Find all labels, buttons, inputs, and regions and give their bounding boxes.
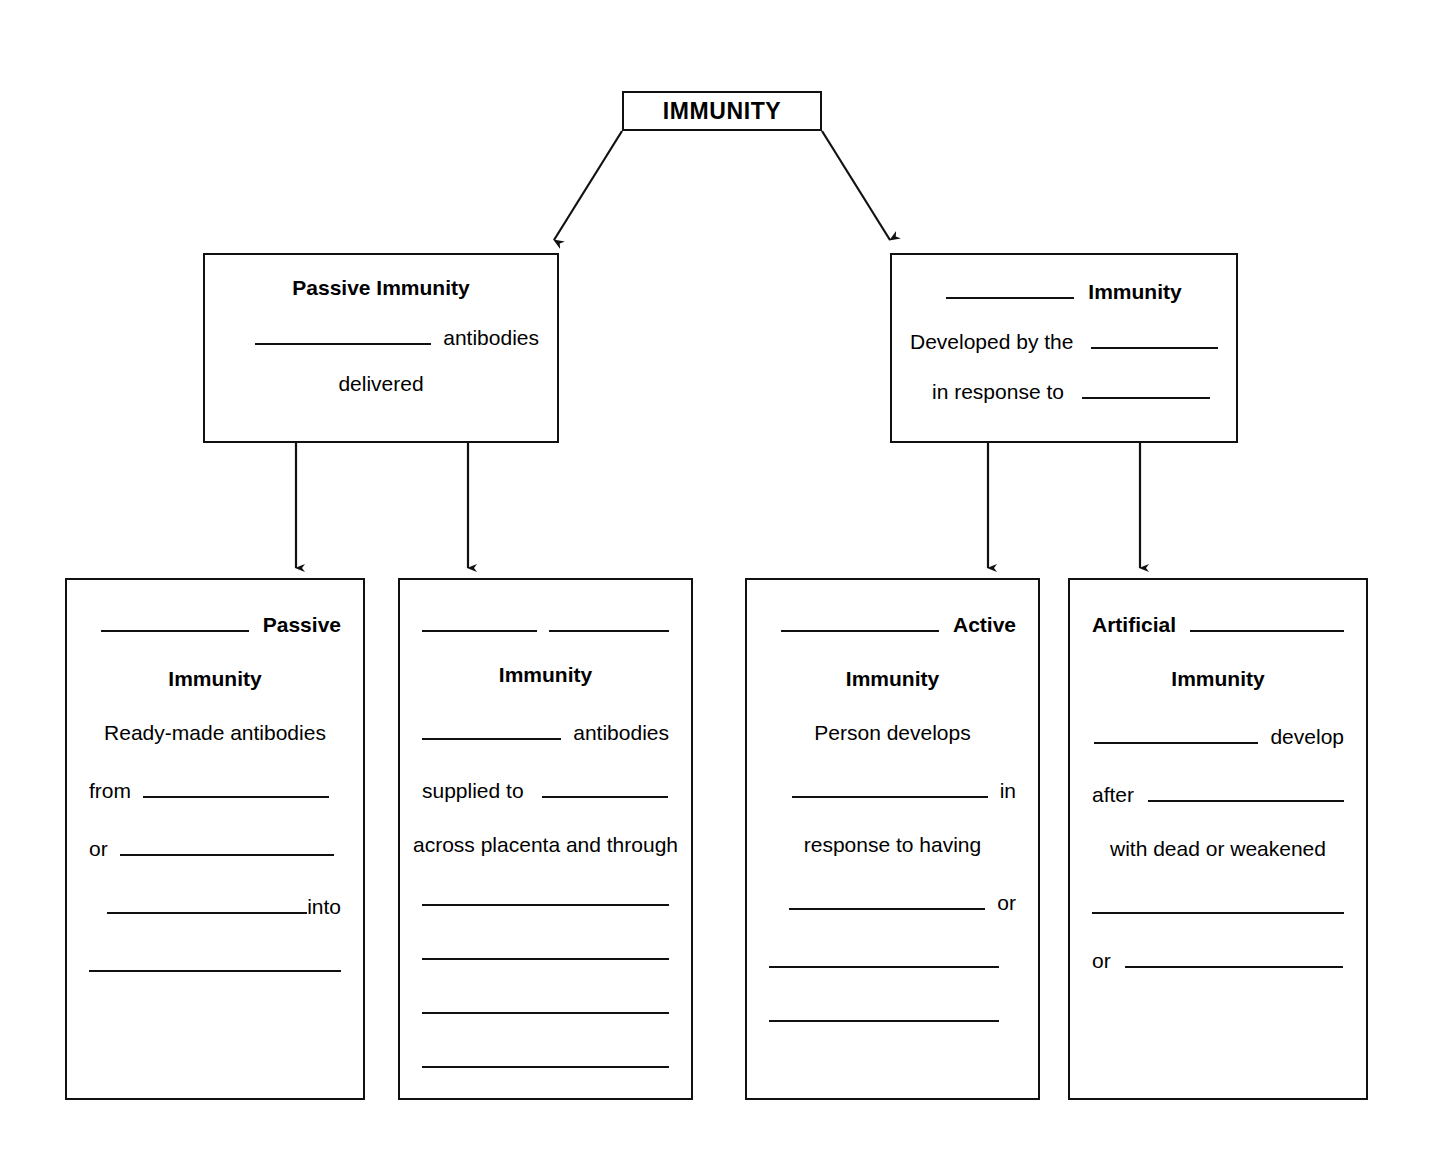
leaf2-row-2: supplied to bbox=[422, 776, 669, 802]
second-heading-blank[interactable] bbox=[946, 277, 1074, 299]
passive-row-2: delivered bbox=[223, 373, 539, 395]
leaf3-row-4-blank[interactable] bbox=[789, 888, 985, 910]
leaf1-row-3-blank[interactable] bbox=[120, 834, 334, 856]
leaf4-row-1: develop bbox=[1092, 722, 1344, 748]
leaf2-title-blank-b[interactable] bbox=[549, 610, 669, 632]
leaf2-row-6 bbox=[422, 992, 669, 1014]
immunity-concept-map: IMMUNITY Passive Immunity antibodies del… bbox=[0, 0, 1450, 1159]
second-heading-label: Immunity bbox=[1088, 281, 1181, 303]
leaf1-row-4-blank[interactable] bbox=[107, 892, 307, 914]
leaf3-title-immunity: Immunity bbox=[846, 668, 939, 690]
leaf2-row-1-blank[interactable] bbox=[422, 718, 561, 740]
leaf4-title-row-2: Immunity bbox=[1092, 668, 1344, 690]
leaf3-row-3-label: response to having bbox=[804, 834, 981, 856]
box-passive-immunity: Passive Immunity antibodies delivered bbox=[203, 253, 559, 443]
leaf2-row-2-blank[interactable] bbox=[542, 776, 668, 798]
leaf3-title-blank[interactable] bbox=[781, 610, 939, 632]
passive-row-1-label: antibodies bbox=[443, 327, 539, 349]
leaf1-title-row-1: Passive bbox=[89, 610, 341, 636]
leaf4-row-2-blank[interactable] bbox=[1148, 780, 1344, 802]
root-box-immunity: IMMUNITY bbox=[622, 91, 822, 131]
leaf2-row-2-label: supplied to bbox=[422, 780, 524, 802]
second-heading-row: Immunity bbox=[910, 277, 1218, 303]
leaf4-row-1-label: develop bbox=[1270, 726, 1344, 748]
leaf1-row-1-label: Ready-made antibodies bbox=[104, 722, 326, 744]
leaf3-row-5 bbox=[769, 946, 1016, 968]
leaf4-row-4 bbox=[1092, 892, 1344, 914]
leaf4-row-5: or bbox=[1092, 946, 1344, 972]
leaf1-row-4-label: into bbox=[307, 896, 341, 918]
leaf2-row-6-blank[interactable] bbox=[422, 992, 669, 1014]
leaf3-row-6 bbox=[769, 1000, 1016, 1022]
leaf1-row-5 bbox=[89, 950, 341, 972]
passive-row-1: antibodies bbox=[223, 323, 539, 349]
leaf1-row-1: Ready-made antibodies bbox=[89, 722, 341, 744]
leaf2-title-row-2: Immunity bbox=[422, 664, 669, 686]
leaf2-title-blank-a[interactable] bbox=[422, 610, 537, 632]
leaf2-row-5 bbox=[422, 938, 669, 960]
leaf3-row-2: in bbox=[769, 776, 1016, 802]
leaf2-row-5-blank[interactable] bbox=[422, 938, 669, 960]
leaf3-row-6-blank[interactable] bbox=[769, 1000, 999, 1022]
leaf2-row-7-blank[interactable] bbox=[422, 1046, 669, 1068]
box-blank-active-immunity: Active Immunity Person develops in respo… bbox=[745, 578, 1040, 1100]
leaf3-title-row-1: Active bbox=[769, 610, 1016, 636]
leaf1-row-3-label: or bbox=[89, 838, 108, 860]
leaf2-row-4 bbox=[422, 884, 669, 906]
leaf4-row-2-label: after bbox=[1092, 784, 1134, 806]
leaf4-row-5-label: or bbox=[1092, 950, 1111, 972]
second-row-1-label: Developed by the bbox=[910, 331, 1073, 353]
leaf2-title-row-1 bbox=[422, 610, 669, 632]
leaf2-row-7 bbox=[422, 1046, 669, 1068]
leaf1-row-2: from bbox=[89, 776, 341, 802]
leaf4-row-2: after bbox=[1092, 780, 1344, 806]
leaf1-row-3: or bbox=[89, 834, 341, 860]
leaf3-row-1: Person develops bbox=[769, 722, 1016, 744]
leaf3-row-4: or bbox=[769, 888, 1016, 914]
second-row-2: in response to bbox=[910, 377, 1218, 403]
leaf4-title-immunity: Immunity bbox=[1171, 668, 1264, 690]
leaf1-title-word: Passive bbox=[263, 614, 341, 636]
box-blank-passive-immunity: Passive Immunity Ready-made antibodies f… bbox=[65, 578, 365, 1100]
leaf2-title-immunity: Immunity bbox=[499, 664, 592, 686]
leaf1-row-2-blank[interactable] bbox=[143, 776, 329, 798]
leaf3-row-2-label: in bbox=[1000, 780, 1016, 802]
passive-row-2-label: delivered bbox=[338, 373, 423, 395]
leaf1-row-5-blank[interactable] bbox=[89, 950, 341, 972]
leaf4-title-word: Artificial bbox=[1092, 614, 1176, 636]
passive-heading-label: Passive Immunity bbox=[292, 277, 469, 299]
second-row-1-blank[interactable] bbox=[1091, 327, 1218, 349]
root-box-label: IMMUNITY bbox=[663, 98, 782, 125]
leaf3-row-4-label: or bbox=[997, 892, 1016, 914]
leaf3-title-word: Active bbox=[953, 614, 1016, 636]
leaf3-row-1-label: Person develops bbox=[814, 722, 970, 744]
passive-heading-row: Passive Immunity bbox=[223, 277, 539, 299]
leaf3-row-2-blank[interactable] bbox=[792, 776, 988, 798]
leaf2-row-3: across placenta and through bbox=[422, 834, 669, 856]
box-blank-immunity: Immunity Developed by the in response to bbox=[890, 253, 1238, 443]
leaf2-row-3-label: across placenta and through bbox=[413, 834, 678, 856]
leaf4-row-1-blank[interactable] bbox=[1094, 722, 1258, 744]
leaf4-row-3-label: with dead or weakened bbox=[1110, 838, 1326, 860]
second-row-1: Developed by the bbox=[910, 327, 1218, 353]
leaf1-row-4: into bbox=[89, 892, 341, 918]
leaf1-row-2-label: from bbox=[89, 780, 131, 802]
leaf4-row-5-blank[interactable] bbox=[1125, 946, 1343, 968]
leaf3-row-3: response to having bbox=[769, 834, 1016, 856]
leaf4-title-row-1: Artificial bbox=[1092, 610, 1344, 636]
second-row-2-blank[interactable] bbox=[1082, 377, 1210, 399]
leaf3-title-row-2: Immunity bbox=[769, 668, 1016, 690]
leaf2-row-4-blank[interactable] bbox=[422, 884, 669, 906]
leaf4-row-3: with dead or weakened bbox=[1092, 838, 1344, 860]
box-artificial-blank-immunity: Artificial Immunity develop after with d… bbox=[1068, 578, 1368, 1100]
leaf3-row-5-blank[interactable] bbox=[769, 946, 999, 968]
leaf4-title-blank[interactable] bbox=[1190, 610, 1344, 632]
leaf1-title-row-2: Immunity bbox=[89, 668, 341, 690]
leaf2-row-1-label: antibodies bbox=[573, 722, 669, 744]
leaf1-title-blank[interactable] bbox=[101, 610, 249, 632]
arrow-root-to-second bbox=[822, 131, 890, 240]
leaf2-row-1: antibodies bbox=[422, 718, 669, 744]
passive-row-1-blank[interactable] bbox=[255, 323, 431, 345]
second-row-2-label: in response to bbox=[932, 381, 1064, 403]
leaf4-row-4-blank[interactable] bbox=[1092, 892, 1344, 914]
